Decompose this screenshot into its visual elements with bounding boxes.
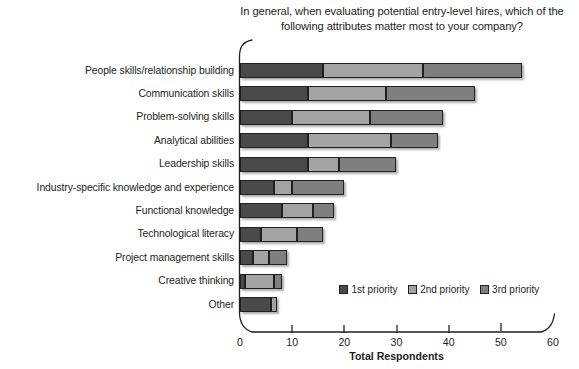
legend-swatch — [339, 285, 348, 294]
bar-segment — [240, 297, 271, 312]
category-label: Functional knowledge — [0, 205, 234, 217]
legend-item: 1st priority — [339, 284, 398, 295]
bar-segment — [274, 274, 282, 289]
bar-segment — [391, 133, 438, 148]
category-label: Creative thinking — [0, 275, 234, 287]
bar-row — [240, 274, 282, 289]
bar-segment — [323, 63, 422, 78]
x-tick-label: 30 — [391, 336, 403, 348]
bar-row — [240, 110, 443, 125]
bar-segment — [261, 227, 298, 242]
category-label: People skills/relationship building — [0, 65, 234, 77]
bar-segment — [292, 180, 344, 195]
bar-segment — [240, 63, 323, 78]
legend-label: 1st priority — [352, 284, 398, 295]
bar-segment — [282, 203, 313, 218]
category-label: Industry-specific knowledge and experien… — [0, 182, 234, 194]
bar-segment — [292, 110, 370, 125]
bar-row — [240, 133, 438, 148]
bar-segment — [308, 133, 391, 148]
x-tick-label: 10 — [286, 336, 298, 348]
bar-segment — [271, 297, 276, 312]
x-tick-label: 60 — [547, 336, 559, 348]
category-label: Leadership skills — [0, 158, 234, 170]
bar-segment — [253, 250, 269, 265]
chart-title-line-1: In general, when evaluating potential en… — [240, 5, 563, 17]
bar-segment — [339, 157, 396, 172]
category-label: Analytical abilities — [0, 135, 234, 147]
chart-legend: 1st priority2nd priority3rd priority — [339, 281, 539, 297]
bar-segment — [386, 86, 475, 101]
bar-segment — [240, 180, 274, 195]
bar-row — [240, 297, 277, 312]
bar-row — [240, 227, 323, 242]
bar-segment — [240, 157, 308, 172]
x-tick-label: 0 — [237, 336, 243, 348]
bar-segment — [245, 274, 274, 289]
bar-segment — [240, 133, 308, 148]
x-tick-label: 50 — [495, 336, 507, 348]
legend-swatch — [480, 285, 489, 294]
bar-segment — [274, 180, 292, 195]
bar-segment — [269, 250, 287, 265]
legend-label: 2nd priority — [420, 284, 469, 295]
bar-segment — [423, 63, 522, 78]
bar-segment — [240, 203, 282, 218]
legend-swatch — [408, 285, 417, 294]
bar-segment — [308, 157, 339, 172]
bar-row — [240, 203, 334, 218]
category-label: Technological literacy — [0, 228, 234, 240]
chart-title: In general, when evaluating potential en… — [228, 4, 576, 33]
bar-row — [240, 250, 287, 265]
bar-segment — [313, 203, 334, 218]
legend-label: 3rd priority — [492, 284, 539, 295]
category-label: Project management skills — [0, 252, 234, 264]
bar-segment — [240, 227, 261, 242]
bar-row — [240, 180, 344, 195]
legend-item: 3rd priority — [480, 284, 540, 295]
x-axis-title: Total Respondents — [240, 350, 553, 362]
bar-segment — [308, 86, 386, 101]
category-label: Communication skills — [0, 88, 234, 100]
legend-item: 2nd priority — [408, 284, 470, 295]
category-axis-labels: People skills/relationship buildingCommu… — [0, 57, 234, 322]
category-label: Other — [0, 299, 234, 311]
chart-title-line-2: following attributes matter most to your… — [281, 20, 523, 32]
x-axis-tick-labels: 0102030405060 — [240, 336, 553, 350]
bar-segment — [370, 110, 443, 125]
x-tick-label: 20 — [338, 336, 350, 348]
bar-segment — [240, 86, 308, 101]
bar-segment — [297, 227, 323, 242]
bar-row — [240, 63, 522, 78]
category-label: Problem-solving skills — [0, 111, 234, 123]
bar-segment — [240, 110, 292, 125]
bar-row — [240, 86, 475, 101]
bar-segment — [240, 250, 253, 265]
bar-row — [240, 157, 396, 172]
x-tick-label: 40 — [443, 336, 455, 348]
stacked-bar-chart: In general, when evaluating potential en… — [0, 0, 579, 369]
